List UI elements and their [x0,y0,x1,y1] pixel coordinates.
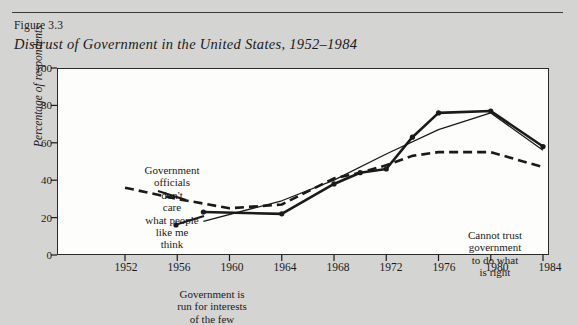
annotation-run-for-interests: Government is run for interests of the f… [154,288,270,325]
data-series-group [125,108,546,221]
annotation-leader-lines [158,191,204,228]
axis-ticks [51,68,543,261]
